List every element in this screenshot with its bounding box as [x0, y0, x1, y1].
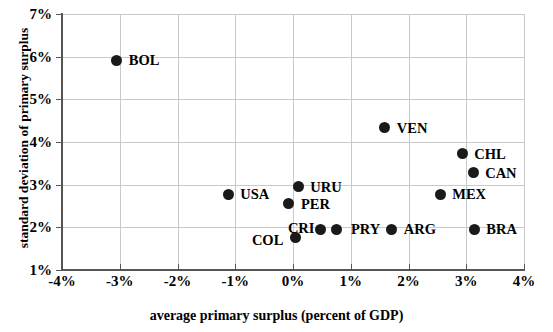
- y-axis-tick: [56, 57, 63, 58]
- gridline-vertical: [120, 14, 121, 270]
- x-axis-tick: [235, 264, 236, 271]
- x-axis-tick-label: 2%: [379, 274, 439, 289]
- x-axis-tick: [351, 264, 352, 271]
- x-axis-tick-label: -4%: [32, 274, 92, 289]
- y-axis-tick: [56, 142, 63, 143]
- data-point-label: CHL: [474, 147, 505, 162]
- x-axis-tick-label: 0%: [263, 274, 323, 289]
- data-point-label: URU: [310, 180, 341, 195]
- y-axis-tick: [56, 14, 63, 15]
- x-axis-tick-label: -1%: [205, 274, 265, 289]
- data-point-label: USA: [240, 187, 269, 202]
- data-point: [111, 55, 122, 66]
- gridline-vertical: [235, 14, 236, 270]
- data-point: [223, 189, 234, 200]
- x-axis-tick: [62, 264, 63, 271]
- data-point-label: VEN: [397, 121, 428, 136]
- x-axis-tick: [466, 264, 467, 271]
- x-axis-tick-label: 3%: [436, 274, 496, 289]
- x-axis-tick-label: -2%: [148, 274, 208, 289]
- x-axis-title: average primary surplus (percent of GDP): [0, 308, 553, 324]
- data-point: [469, 224, 480, 235]
- x-axis-tick: [409, 264, 410, 271]
- x-axis-tick-label: 4%: [494, 274, 553, 289]
- y-axis-tick: [56, 185, 63, 186]
- data-point-label: MEX: [452, 187, 486, 202]
- data-point-label: BOL: [129, 53, 160, 68]
- y-axis-tick: [56, 99, 63, 100]
- data-point: [293, 181, 304, 192]
- x-axis-tick: [178, 264, 179, 271]
- data-point-label: COL: [252, 233, 283, 248]
- gridline-vertical: [524, 14, 525, 270]
- x-axis-tick: [524, 264, 525, 271]
- x-axis-tick: [120, 264, 121, 271]
- x-axis-tick: [293, 264, 294, 271]
- x-axis-tick-label: -3%: [90, 274, 150, 289]
- gridline-vertical: [466, 14, 467, 270]
- data-point: [468, 167, 479, 178]
- data-point-label: PRY: [351, 222, 380, 237]
- y-axis-title: standard deviation of primary surplus: [16, 13, 32, 263]
- gridline-vertical: [178, 14, 179, 270]
- data-point-label: PER: [301, 197, 330, 212]
- x-axis-tick-label: 1%: [321, 274, 381, 289]
- data-point-label: CRI: [288, 221, 315, 236]
- data-point: [457, 148, 468, 159]
- scatter-chart-figure: 1%2%3%4%5%6%7%-4%-3%-2%-1%0%1%2%3%4%BOLV…: [0, 0, 553, 332]
- y-axis-tick: [56, 227, 63, 228]
- data-point-label: CAN: [485, 166, 516, 181]
- data-point-label: ARG: [404, 222, 436, 237]
- data-point: [435, 189, 446, 200]
- data-point-label: BRA: [486, 222, 517, 237]
